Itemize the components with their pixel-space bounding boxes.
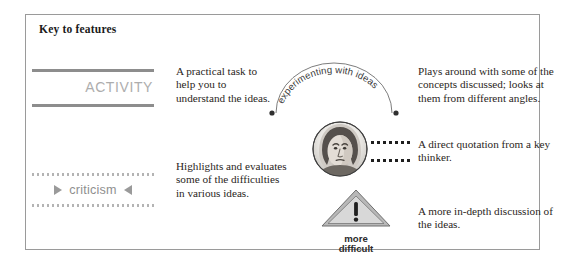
- more-difficult-label-line2: difficult: [316, 244, 396, 254]
- activity-rule-top: [32, 69, 154, 72]
- more-difficult-label: more difficult: [316, 234, 396, 254]
- activity-badge-label: ACTIVITY: [85, 76, 153, 98]
- criticism-badge-row: criticism: [32, 180, 154, 200]
- more-difficult-graphic: more difficult: [316, 187, 396, 249]
- triangle-right-icon: [54, 185, 62, 195]
- criticism-dotted-rule-bottom: [32, 204, 154, 207]
- page-title: Key to features: [39, 23, 117, 35]
- quotation-description: A direct quotation from a key thinker.: [418, 138, 568, 165]
- quotation-graphic: [309, 118, 419, 180]
- key-to-features-panel: Key to features ACTIVITY A practical tas…: [25, 14, 540, 250]
- warning-triangle-icon: [316, 187, 396, 229]
- activity-badge: ACTIVITY: [32, 69, 154, 107]
- activity-rule-bottom: [32, 104, 154, 107]
- triangle-left-icon: [124, 185, 132, 195]
- experimenting-arc-graphic: experimenting with ideas: [264, 55, 404, 117]
- arc-icon: experimenting with ideas: [264, 55, 404, 117]
- criticism-dotted-rule-top: [32, 173, 154, 176]
- svg-text:experimenting with ideas: experimenting with ideas: [275, 64, 381, 105]
- quote-dotted-lines: [371, 141, 410, 162]
- arc-label: experimenting with ideas: [275, 64, 381, 105]
- experimenting-description: Plays around with some of the concepts d…: [418, 65, 568, 105]
- criticism-badge-label: criticism: [69, 183, 116, 197]
- criticism-badge: criticism: [32, 173, 154, 209]
- portrait-medallion-icon: [309, 118, 419, 180]
- more-difficult-description: A more in-depth discussion of the ideas.: [418, 205, 568, 232]
- criticism-description: Highlights and evaluates some of the dif…: [176, 160, 288, 200]
- activity-description: A practical task to help you to understa…: [176, 65, 276, 105]
